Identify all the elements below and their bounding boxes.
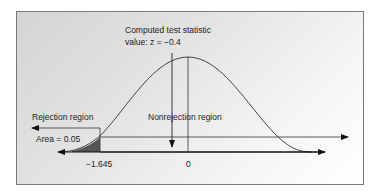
tick-critical-value: −1.645 (86, 159, 112, 170)
rejection-region-label: Rejection region (32, 112, 93, 123)
tick-zero: 0 (186, 159, 191, 170)
nonrejection-region-label: Nonrejection region (148, 112, 222, 123)
annotation-line2: value: z = −0.4 (125, 37, 181, 48)
annotation-line1: Computed test statistic (125, 25, 211, 36)
area-label: Area = 0.05 (36, 134, 80, 145)
